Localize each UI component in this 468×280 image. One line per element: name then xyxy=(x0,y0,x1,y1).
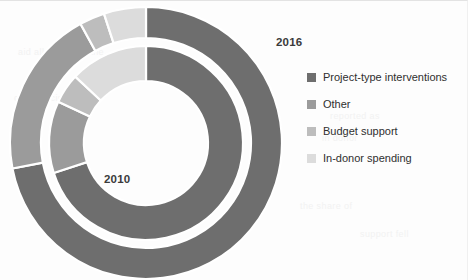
legend-item-project-type-interventions[interactable]: Project-type interventions xyxy=(307,71,465,83)
background-bleed-text: the share of xyxy=(300,201,352,211)
chart-figure: aid allocation to the of the recipient r… xyxy=(0,0,468,280)
background-bleed-text: support fell xyxy=(360,229,409,239)
inner-ring-year-label: 2010 xyxy=(104,173,130,185)
nested-doughnut-chart: 2016 2010 xyxy=(6,5,286,280)
legend-swatch-icon xyxy=(307,154,316,163)
legend-swatch-icon xyxy=(307,127,316,136)
legend-label: Budget support xyxy=(323,125,398,137)
legend-label: Other xyxy=(323,98,351,110)
legend-item-other[interactable]: Other xyxy=(307,98,465,110)
inner-ring-2010 xyxy=(49,46,243,240)
legend-swatch-icon xyxy=(307,100,316,109)
outer-ring-year-label: 2016 xyxy=(276,36,302,48)
legend-label: In-donor spending xyxy=(323,152,412,164)
legend-item-in-donor-spending[interactable]: In-donor spending xyxy=(307,152,465,164)
legend-swatch-icon xyxy=(307,73,316,82)
legend-label: Project-type interventions xyxy=(323,71,447,83)
legend-item-budget-support[interactable]: Budget support xyxy=(307,125,465,137)
chart-legend: Project-type interventions Other Budget … xyxy=(307,71,465,164)
doughnut-svg xyxy=(6,5,286,280)
